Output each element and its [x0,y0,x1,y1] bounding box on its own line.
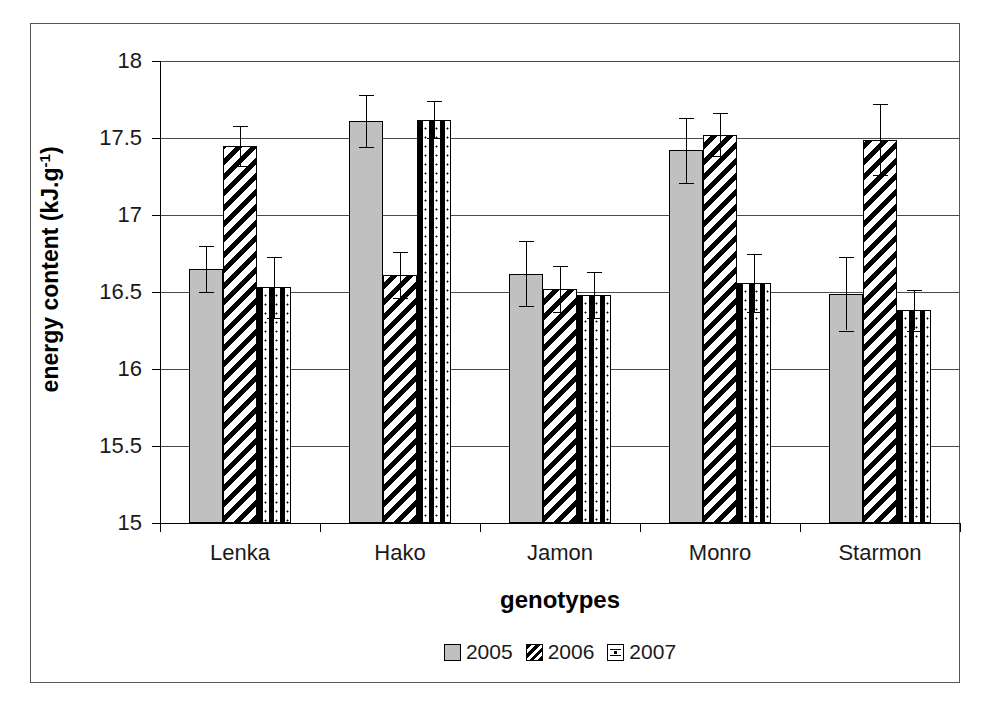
x-axis-category-label: Hako [320,540,480,566]
gridline [160,215,960,216]
x-axis-tick-mark [320,523,321,532]
y-axis-tick-label: 15 [82,510,142,536]
y-axis-tick-mark [152,292,160,293]
legend-label: 2006 [548,640,595,664]
legend-label: 2005 [466,640,513,664]
error-bar-stem [206,246,207,292]
error-bar-stem [754,254,755,313]
chart-figure: energy content (kJ.g-1) 1817.51716.51615… [0,0,984,712]
legend-item-2007: 2007 [607,640,676,664]
error-bar-stem [846,257,847,331]
y-axis-tick-label: 18 [82,48,142,74]
x-axis-tick-mark [640,523,641,532]
y-axis-tick-label: 15.5 [82,433,142,459]
x-axis-category-label: Monro [640,540,800,566]
y-axis-tick-mark [152,446,160,447]
x-axis-category-label: Lenka [160,540,320,566]
bar-monro-2006 [703,135,737,523]
error-bar-cap-upper [713,113,728,114]
bar-starmon-2007 [897,310,931,523]
error-bar-cap-lower [267,318,282,319]
error-bar-cap-lower [199,292,214,293]
error-bar-cap-upper [747,254,762,255]
error-bar-cap-lower [587,318,602,319]
error-bar-cap-upper [907,290,922,291]
x-axis-tick-mark [800,523,801,532]
diagonal-hatch-swatch [526,644,543,661]
bar-jamon-2007 [577,295,611,523]
legend-item-2005: 2005 [444,640,513,664]
bar-jamon-2005 [509,274,543,523]
error-bar-cap-lower [747,312,762,313]
dotted-swatch [607,644,624,661]
y-axis-tick-mark [152,61,160,62]
y-axis-tick-label: 17.5 [82,125,142,151]
bar-hako-2007 [417,120,451,523]
error-bar-cap-upper [873,104,888,105]
error-bar-cap-lower [519,306,534,307]
bar-starmon-2006 [863,140,897,523]
error-bar-cap-upper [427,101,442,102]
y-axis-tick-mark [152,215,160,216]
plot-area [160,61,960,523]
error-bar-stem [366,95,367,147]
error-bar-cap-upper [679,118,694,119]
error-bar-cap-upper [359,95,374,96]
bar-monro-2007 [737,283,771,523]
error-bar-cap-lower [839,331,854,332]
bar-jamon-2006 [543,289,577,523]
bar-lenka-2007 [257,287,291,523]
error-bar-cap-upper [267,257,282,258]
error-bar-stem [400,252,401,298]
legend-label: 2007 [629,640,676,664]
error-bar-cap-lower [873,175,888,176]
x-axis-category-label: Jamon [480,540,640,566]
solid-gray-swatch [444,644,461,661]
x-axis-title: genotypes [160,586,960,614]
error-bar-cap-upper [233,126,248,127]
bar-lenka-2005 [189,269,223,523]
bar-hako-2005 [349,121,383,523]
x-axis-tick-mark [160,523,161,532]
error-bar-stem [434,101,435,138]
error-bar-cap-lower [713,156,728,157]
y-axis-tick-label: 17 [82,202,142,228]
error-bar-stem [274,257,275,319]
error-bar-cap-upper [553,266,568,267]
y-axis-line [160,61,161,523]
error-bar-cap-lower [427,138,442,139]
y-axis-tick-mark [152,138,160,139]
error-bar-cap-upper [839,257,854,258]
bar-lenka-2006 [223,146,257,523]
x-axis-tick-mark [960,523,961,532]
error-bar-stem [560,266,561,312]
error-bar-stem [526,241,527,306]
error-bar-cap-upper [199,246,214,247]
x-axis-tick-mark [480,523,481,532]
error-bar-stem [880,104,881,175]
error-bar-stem [720,113,721,156]
error-bar-cap-lower [907,331,922,332]
bar-hako-2006 [383,275,417,523]
chart-legend: 200520062007 [160,640,960,664]
gridline [160,138,960,139]
y-axis-tick-mark [152,523,160,524]
error-bar-stem [686,118,687,183]
gridline [160,61,960,62]
error-bar-cap-lower [393,298,408,299]
error-bar-cap-lower [553,312,568,313]
y-axis-tick-label: 16 [82,356,142,382]
error-bar-cap-lower [359,147,374,148]
error-bar-stem [914,290,915,330]
error-bar-cap-lower [679,183,694,184]
bar-monro-2005 [669,150,703,523]
x-axis-category-label: Starmon [800,540,960,566]
y-axis-tick-mark [152,369,160,370]
error-bar-cap-lower [233,166,248,167]
error-bar-stem [594,272,595,318]
error-bar-cap-upper [587,272,602,273]
y-axis-tick-label: 16.5 [82,279,142,305]
error-bar-cap-upper [519,241,534,242]
error-bar-stem [240,126,241,166]
legend-item-2006: 2006 [526,640,595,664]
